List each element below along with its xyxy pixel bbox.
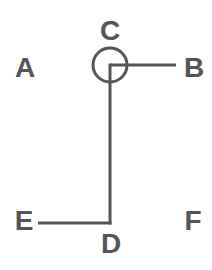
label-a: A [15,54,35,82]
label-c: C [100,17,120,45]
label-b: B [184,54,204,82]
label-d: D [101,230,121,258]
diagram-canvas: A B C D E F [0,0,212,270]
label-e: E [15,207,34,235]
label-f: F [184,207,201,235]
